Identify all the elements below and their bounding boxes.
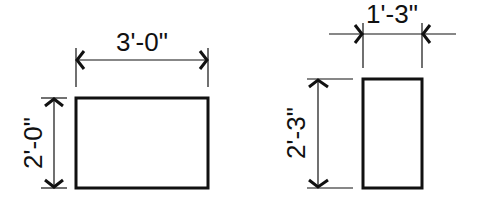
right-height-dimension	[307, 79, 353, 188]
left-rectangle	[76, 98, 208, 188]
left-figure	[41, 48, 208, 188]
left-width-label: 3'-0"	[116, 27, 168, 57]
left-height-label: 2'-0"	[18, 117, 48, 169]
right-height-label: 2'-3"	[281, 107, 311, 159]
right-rectangle	[363, 79, 422, 188]
right-width-dimension	[329, 23, 456, 68]
dimension-diagram: 3'-0" 2'-0" 1'-3" 2'-3"	[0, 0, 478, 207]
right-figure	[307, 23, 456, 188]
right-width-label: 1'-3"	[366, 0, 418, 29]
